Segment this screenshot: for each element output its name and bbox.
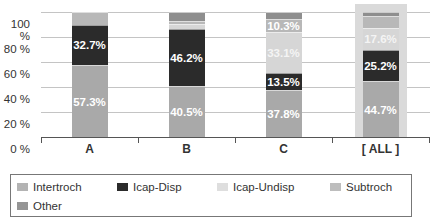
- legend-item-icap-undisp: Icap-Undisp: [217, 181, 294, 193]
- bar-segment-subtroch: 10.3%: [266, 19, 302, 32]
- bar-segment-subtroch: [169, 21, 205, 24]
- legend-label: Other: [33, 200, 62, 212]
- bar-a: 57.3%32.7%: [72, 12, 108, 137]
- legend-swatch: [217, 183, 228, 191]
- bar-segment-intertroch: 57.3%: [72, 65, 108, 137]
- bar-segment-other: [363, 12, 399, 16]
- x-label-a: A: [42, 142, 138, 156]
- legend-swatch: [330, 183, 341, 191]
- legend-swatch: [17, 202, 28, 210]
- bar-segment-intertroch: 44.7%: [363, 81, 399, 137]
- bar-segment-intertroch: 37.8%: [266, 90, 302, 137]
- bar-segment-subtroch: [72, 12, 108, 25]
- legend-label: Icap-Disp: [133, 181, 182, 193]
- bar-all: 44.7%25.2%17.6%: [363, 12, 399, 137]
- bar-segment-icap-disp: 25.2%: [363, 50, 399, 82]
- legend-swatch: [117, 183, 128, 191]
- bar-segment-subtroch: [363, 16, 399, 28]
- legend: Intertroch Icap-Disp Icap-Undisp Subtroc…: [10, 174, 412, 217]
- legend-label: Subtroch: [346, 181, 392, 193]
- legend-swatch: [17, 183, 28, 191]
- bar-segment-intertroch: 40.5%: [169, 86, 205, 137]
- legend-item-intertroch: Intertroch: [17, 181, 82, 193]
- bar-c: 37.8%13.5%33.1%10.3%: [266, 12, 302, 137]
- legend-item-subtroch: Subtroch: [330, 181, 392, 193]
- bar-segment-icap-undisp: 33.1%: [266, 32, 302, 73]
- bar-segment-icap-disp: 13.5%: [266, 73, 302, 90]
- y-tick-label: 80 %: [0, 43, 30, 55]
- bar-segment-icap-disp: 46.2%: [169, 29, 205, 87]
- legend-label: Icap-Undisp: [233, 181, 294, 193]
- legend-label: Intertroch: [33, 181, 82, 193]
- bar-segment-icap-undisp: [169, 24, 205, 28]
- x-label-all: [ ALL ]: [333, 142, 429, 156]
- legend-item-other: Other: [17, 200, 62, 212]
- x-label-b: B: [139, 142, 235, 156]
- y-tick-label: 40 %: [0, 93, 30, 105]
- legend-item-icap-disp: Icap-Disp: [117, 181, 182, 193]
- y-tick-label: 0 %: [0, 143, 30, 155]
- bar-segment-other: [169, 12, 205, 21]
- bar-segment-other: [266, 12, 302, 19]
- x-label-c: C: [236, 142, 332, 156]
- bar-segment-icap-disp: 32.7%: [72, 25, 108, 66]
- x-tick: [429, 137, 430, 143]
- bar-b: 40.5%46.2%: [169, 12, 205, 137]
- y-tick-label: 60 %: [0, 68, 30, 80]
- bar-segment-icap-undisp: 17.6%: [363, 28, 399, 50]
- y-tick-label: 100 %: [0, 18, 30, 42]
- stacked-bar-chart: 0 %20 %40 %60 %80 %100 % 57.3%32.7%40.5%…: [0, 0, 434, 165]
- y-tick-label: 20 %: [0, 118, 30, 130]
